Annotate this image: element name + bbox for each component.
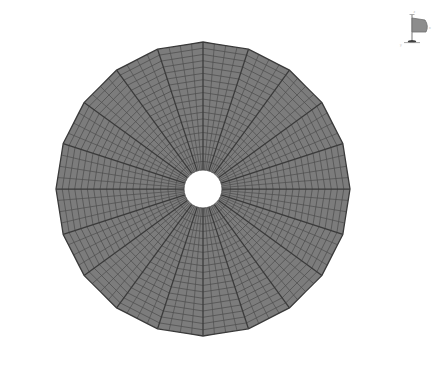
mesh-center-hole xyxy=(184,170,222,208)
mesh-viewport[interactable]: z x y Annular polygonal disk mesh xyxy=(0,0,440,372)
axis-fan-icon xyxy=(412,18,427,32)
axis-label-z: z xyxy=(414,10,416,14)
mesh-canvas[interactable] xyxy=(0,0,440,372)
axis-label-y: y xyxy=(400,43,402,47)
axis-label-x: x xyxy=(429,26,431,30)
orientation-axes-triad[interactable]: z x y xyxy=(398,8,434,50)
annular-disk-mesh[interactable] xyxy=(56,42,350,336)
